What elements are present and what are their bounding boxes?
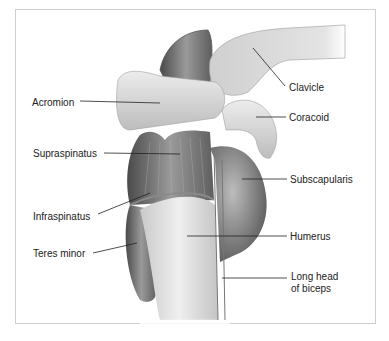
label-supraspinatus: Supraspinatus [33,148,97,160]
label-infraspinatus: Infraspinatus [33,211,90,223]
label-clavicle: Clavicle [289,82,324,94]
label-long-head-biceps: Long head [291,271,338,283]
label-teres-minor: Teres minor [33,248,85,260]
label-subscapularis: Subscapularis [290,174,353,186]
label-humerus: Humerus [290,231,331,243]
label-coracoid: Coracoid [289,112,329,124]
label-long-head-biceps-2: of biceps [291,283,331,295]
label-acromion: Acromion [32,97,74,109]
clavicle-bone [209,25,345,95]
subscapularis-muscle [210,146,267,262]
